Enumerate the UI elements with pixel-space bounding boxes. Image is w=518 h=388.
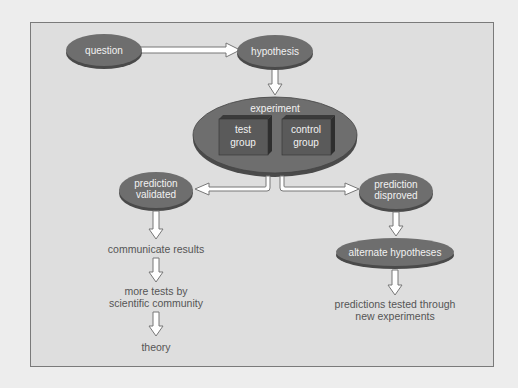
box-control-group: control group bbox=[282, 115, 335, 155]
label-question: question bbox=[85, 45, 123, 56]
flow-diagram: question hypothesis experiment test grou… bbox=[0, 0, 518, 388]
node-prediction-validated: prediction validated bbox=[119, 172, 193, 211]
label-alternate: alternate hypotheses bbox=[349, 247, 442, 258]
node-prediction-disproved: prediction disproved bbox=[359, 173, 433, 212]
arrow-disproved-to-alternate bbox=[389, 212, 403, 236]
arrow-validated-to-communicate bbox=[149, 211, 163, 239]
arrow-alternate-to-predictions-tested bbox=[388, 270, 402, 295]
node-alternate-hypotheses: alternate hypotheses bbox=[336, 238, 454, 269]
arrow-communicate-to-more-tests bbox=[149, 258, 163, 282]
label-disproved-2: disproved bbox=[374, 190, 417, 201]
label-communicate-results: communicate results bbox=[108, 243, 204, 255]
label-disproved-1: prediction bbox=[374, 179, 417, 190]
label-predictions-tested-2: new experiments bbox=[355, 310, 434, 322]
label-hypothesis: hypothesis bbox=[251, 46, 299, 57]
arrow-hypothesis-to-experiment bbox=[268, 66, 282, 95]
label-more-tests-2: scientific community bbox=[109, 297, 204, 309]
label-validated-1: prediction bbox=[134, 178, 177, 189]
arrow-experiment-to-validated bbox=[195, 176, 270, 195]
arrow-question-to-hypothesis bbox=[140, 43, 240, 57]
label-test-group: group bbox=[230, 137, 256, 148]
label-more-tests-1: more tests by bbox=[124, 285, 188, 297]
arrow-experiment-to-disproved bbox=[280, 176, 359, 195]
arrow-more-tests-to-theory bbox=[149, 312, 163, 336]
node-experiment: experiment test group control group bbox=[193, 97, 357, 177]
node-question: question bbox=[66, 34, 142, 69]
label-theory: theory bbox=[141, 341, 171, 353]
label-test: test bbox=[235, 124, 251, 135]
label-control: control bbox=[291, 124, 321, 135]
label-experiment: experiment bbox=[250, 103, 300, 114]
label-validated-2: validated bbox=[136, 189, 176, 200]
box-test-group: test group bbox=[219, 115, 272, 155]
label-predictions-tested-1: predictions tested through bbox=[335, 298, 456, 310]
label-control-group: group bbox=[293, 137, 319, 148]
node-hypothesis: hypothesis bbox=[237, 35, 313, 70]
